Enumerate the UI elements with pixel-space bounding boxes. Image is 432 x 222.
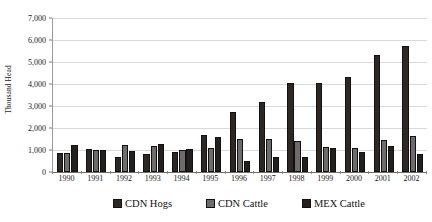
bar <box>330 148 336 172</box>
x-axis-tick-label: 1996 <box>231 174 247 183</box>
bar-group <box>283 18 312 172</box>
bar-group <box>254 18 283 172</box>
bar-group <box>82 18 111 172</box>
bar <box>359 152 365 172</box>
bar <box>230 112 236 173</box>
bar <box>402 46 408 172</box>
bar <box>259 102 265 172</box>
bar <box>345 77 351 172</box>
x-axis-tick-label: 1995 <box>202 174 218 183</box>
bar <box>71 145 77 172</box>
x-axis-tick-mark <box>52 171 53 174</box>
bar <box>93 150 99 172</box>
bar <box>122 145 128 172</box>
bar <box>287 83 293 172</box>
bar <box>179 150 185 172</box>
x-axis-tick-label: 1990 <box>58 174 74 183</box>
legend-swatch-mex-cattle <box>302 199 311 208</box>
legend-swatch-cdn-hogs <box>113 199 122 208</box>
bar-group <box>111 18 140 172</box>
bar <box>417 154 423 172</box>
x-axis-tick-label: 1994 <box>173 174 189 183</box>
x-axis-tick-mark <box>138 171 139 174</box>
bar <box>352 148 358 172</box>
bar-group <box>197 18 226 172</box>
y-axis-tick-label: 1,000 <box>28 146 46 155</box>
x-axis-tick-label: 2000 <box>346 174 362 183</box>
bar <box>86 149 92 172</box>
bar <box>316 83 322 172</box>
x-axis-tick-label: 1993 <box>145 174 161 183</box>
x-axis-tick-mark <box>426 171 427 174</box>
bar <box>410 136 416 172</box>
x-axis-tick-mark <box>225 171 226 174</box>
x-axis-tick-label: 1998 <box>289 174 305 183</box>
bar-group <box>312 18 341 172</box>
bar-group <box>398 18 427 172</box>
bar <box>244 161 250 172</box>
x-axis-tick-mark <box>167 171 168 174</box>
bar <box>273 157 279 172</box>
x-axis-tick-mark <box>110 171 111 174</box>
legend-item[interactable]: CDN Hogs <box>113 198 172 209</box>
bar-group <box>369 18 398 172</box>
x-axis-tick-mark <box>311 171 312 174</box>
x-axis-tick-labels: 1990199119921993199419951996199719981999… <box>52 174 426 188</box>
x-axis-tick-mark <box>397 171 398 174</box>
bar-group <box>53 18 82 172</box>
bar <box>186 149 192 172</box>
legend-item-label: CDN Hogs <box>125 198 172 209</box>
bar <box>208 148 214 172</box>
chart-legend: CDN HogsCDN CattleMEX Cattle <box>52 194 426 212</box>
bar <box>172 152 178 172</box>
bar <box>100 150 106 172</box>
plot-area <box>52 18 427 173</box>
y-axis-tick-label: 3,000 <box>28 102 46 111</box>
bar-group <box>226 18 255 172</box>
bar <box>201 135 207 172</box>
bar-group <box>139 18 168 172</box>
legend-item[interactable]: CDN Cattle <box>206 198 268 209</box>
bar <box>237 139 243 172</box>
bar <box>64 153 70 172</box>
x-axis-tick-label: 1992 <box>116 174 132 183</box>
bar <box>323 147 329 172</box>
bar <box>143 154 149 172</box>
legend-item-label: CDN Cattle <box>218 198 268 209</box>
y-axis-tick-label: 6,000 <box>28 36 46 45</box>
x-axis-tick-label: 1997 <box>260 174 276 183</box>
y-axis-tick-labels: 01,0002,0003,0004,0005,0006,0007,000 <box>0 0 52 178</box>
bar-chart: Thousand Head 01,0002,0003,0004,0005,000… <box>0 0 432 222</box>
bar <box>158 144 164 172</box>
y-axis-tick-label: 2,000 <box>28 124 46 133</box>
x-axis-tick-mark <box>253 171 254 174</box>
x-axis-tick-mark <box>81 171 82 174</box>
bar <box>294 141 300 172</box>
bar <box>388 146 394 172</box>
bar <box>129 151 135 172</box>
bar <box>266 139 272 172</box>
bar <box>151 146 157 172</box>
y-axis-tick-label: 4,000 <box>28 80 46 89</box>
legend-item-label: MEX Cattle <box>314 198 365 209</box>
bar-group <box>168 18 197 172</box>
x-axis-tick-label: 1991 <box>87 174 103 183</box>
y-axis-tick-label: 7,000 <box>28 14 46 23</box>
bar <box>381 140 387 172</box>
legend-swatch-cdn-cattle <box>206 199 215 208</box>
x-axis-tick-label: 2002 <box>404 174 420 183</box>
x-axis-tick-mark <box>368 171 369 174</box>
y-axis-tick-label: 0 <box>42 168 46 177</box>
y-axis-tick-label: 5,000 <box>28 58 46 67</box>
x-axis-tick-mark <box>196 171 197 174</box>
bar <box>374 55 380 172</box>
bar <box>57 153 63 172</box>
bar-group <box>341 18 370 172</box>
legend-item[interactable]: MEX Cattle <box>302 198 365 209</box>
x-axis-tick-label: 2001 <box>375 174 391 183</box>
x-axis-tick-label: 1999 <box>317 174 333 183</box>
bar <box>215 137 221 172</box>
bar <box>115 157 121 172</box>
bar <box>302 157 308 172</box>
x-axis-tick-mark <box>340 171 341 174</box>
